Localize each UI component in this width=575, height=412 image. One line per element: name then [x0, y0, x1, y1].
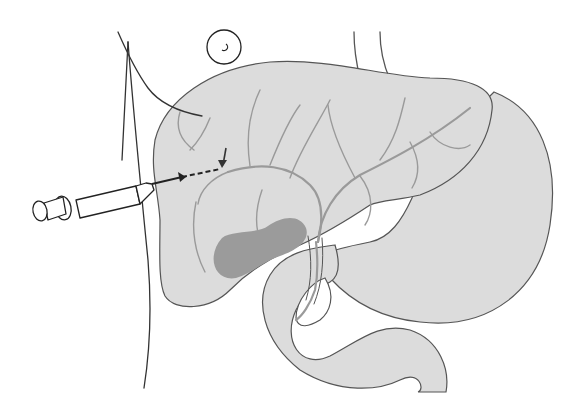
syringe	[31, 183, 154, 222]
diagram-canvas	[0, 0, 575, 412]
pthc-illustration: Percutaneous transhepatic cholangiograph…	[0, 0, 575, 412]
navel	[207, 30, 241, 64]
